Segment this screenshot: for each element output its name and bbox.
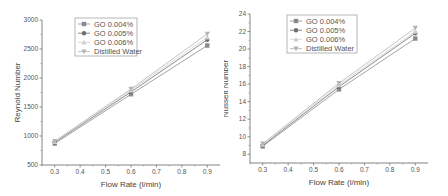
y-tick-label: 12 xyxy=(239,115,247,122)
legend-label: GO 0.005% xyxy=(306,26,346,35)
y-axis-title: Nusselt Number xyxy=(224,59,230,117)
legend-label: GO 0.005% xyxy=(94,29,134,38)
y-tick-label: 8 xyxy=(242,150,246,157)
data-point xyxy=(413,26,418,31)
y-tick-label: 14 xyxy=(239,98,247,105)
x-tick-label: 0.8 xyxy=(177,168,186,175)
x-tick-label: 0.6 xyxy=(334,166,343,173)
x-tick-label: 0.4 xyxy=(76,168,85,175)
x-tick-label: 0.4 xyxy=(284,166,293,173)
y-tick-label: 20 xyxy=(239,45,247,52)
legend: GO 0.004%GO 0.005%GO 0.006%Distilled Wat… xyxy=(287,15,357,53)
x-axis-title: Flow Rate (l/min) xyxy=(309,178,370,187)
x-tick-label: 0.6 xyxy=(126,168,135,175)
x-tick-label: 0.3 xyxy=(50,168,59,175)
series-line xyxy=(263,39,416,147)
legend-label: Distilled Water xyxy=(306,44,355,53)
x-tick-label: 0.5 xyxy=(309,166,318,173)
legend-marker xyxy=(294,28,298,32)
x-tick-label: 0.7 xyxy=(360,166,369,173)
data-point xyxy=(205,43,209,47)
y-tick-label: 1500 xyxy=(24,103,39,110)
x-tick-label: 0.3 xyxy=(258,166,267,173)
x-tick-label: 0.7 xyxy=(152,168,161,175)
y-tick-label: 3000 xyxy=(24,16,39,23)
x-tick-label: 0.5 xyxy=(101,168,110,175)
y-tick-label: 2000 xyxy=(24,74,39,81)
legend-label: GO 0.004% xyxy=(306,17,346,26)
figure: 500100015002000250030000.30.40.50.60.70.… xyxy=(0,0,448,196)
x-axis-title: Flow Rate (l/min) xyxy=(101,180,162,189)
legend-label: GO 0.004% xyxy=(94,20,134,29)
reynold-number-chart: 500100015002000250030000.30.40.50.60.70.… xyxy=(0,0,224,196)
y-tick-label: 24 xyxy=(239,10,247,17)
y-tick-label: 1000 xyxy=(24,132,39,139)
x-tick-label: 0.8 xyxy=(385,166,394,173)
nusselt-number-chart: 810121416182022240.30.40.50.60.70.80.9Fl… xyxy=(224,0,448,196)
legend-label: Distilled Water xyxy=(94,47,143,56)
data-point xyxy=(205,32,210,37)
x-tick-label: 0.9 xyxy=(411,166,420,173)
y-tick-label: 10 xyxy=(239,133,247,140)
legend: GO 0.004%GO 0.005%GO 0.006%Distilled Wat… xyxy=(75,18,143,56)
legend-marker xyxy=(294,19,298,23)
y-tick-label: 16 xyxy=(239,80,247,87)
series-go-0-004- xyxy=(53,43,210,145)
y-tick-label: 18 xyxy=(239,63,247,70)
y-tick-label: 500 xyxy=(27,161,38,168)
y-axis-title: Reynold Number xyxy=(13,62,22,122)
y-tick-label: 2500 xyxy=(24,45,39,52)
legend-marker xyxy=(82,22,86,26)
data-point xyxy=(413,36,417,40)
legend-marker xyxy=(82,31,86,35)
y-tick-label: 22 xyxy=(239,28,247,35)
legend-label: GO 0.006% xyxy=(306,35,346,44)
legend-label: GO 0.006% xyxy=(94,38,134,47)
x-tick-label: 0.9 xyxy=(203,168,212,175)
